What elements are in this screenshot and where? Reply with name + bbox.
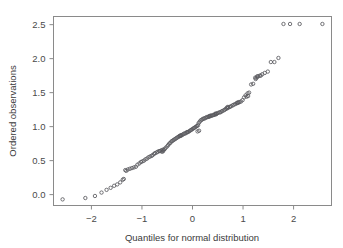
- y-tick-label: 2.5: [32, 19, 45, 30]
- y-tick-label: 1.0: [32, 121, 45, 132]
- y-tick-label: 0.0: [32, 189, 45, 200]
- y-tick-label: 0.5: [32, 155, 45, 166]
- x-tick-label: 2: [291, 213, 296, 224]
- x-tick-label: −2: [86, 213, 97, 224]
- x-tick-label: 0: [190, 213, 195, 224]
- figure-background: [0, 0, 343, 248]
- x-tick-label: −1: [137, 213, 148, 224]
- plot-canvas: −2−1012 0.00.51.01.52.02.5 Quantiles for…: [0, 0, 343, 248]
- y-axis-label: Ordered observations: [7, 65, 18, 157]
- y-tick-label: 2.0: [32, 53, 45, 64]
- y-tick-label: 1.5: [32, 87, 45, 98]
- x-axis-label: Quantiles for normal distribution: [125, 232, 259, 243]
- qq-plot-figure: −2−1012 0.00.51.01.52.02.5 Quantiles for…: [0, 0, 343, 248]
- x-tick-label: 1: [240, 213, 245, 224]
